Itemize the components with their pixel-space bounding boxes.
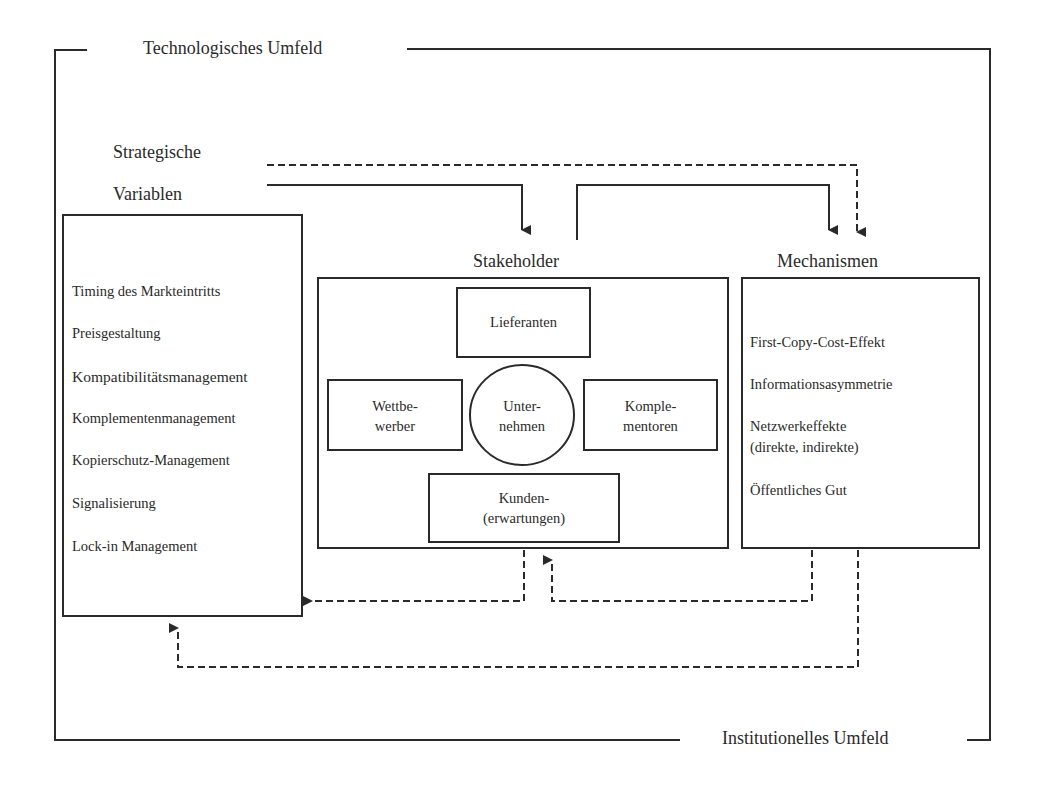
complementors-label-line1: Komple-	[584, 398, 717, 415]
stakeholder-title: Stakeholder	[473, 251, 559, 272]
mechanisms-box	[742, 278, 979, 548]
institutional-environment-label: Institutionelles Umfeld	[722, 728, 888, 749]
strategic-variable-item: Signalisierung	[72, 495, 156, 512]
competitors-label-line1: Wettbe-	[328, 398, 462, 415]
strategic-variable-item: Komplementenmanagement	[72, 410, 235, 427]
company-circle	[470, 365, 574, 465]
mechanism-item: Öffentliches Gut	[750, 482, 847, 499]
strategic-variables-title-line2: Variablen	[113, 184, 182, 205]
strategic-variable-item: Kopierschutz-Management	[72, 452, 230, 469]
diagram-connectors	[0, 0, 1042, 788]
complementors-label-line2: mentoren	[584, 418, 717, 435]
mechanism-item: Informationsasymmetrie	[750, 376, 893, 393]
complementors-box	[584, 380, 717, 450]
technological-environment-label: Technologisches Umfeld	[143, 38, 322, 59]
mechanism-item: Netzwerkeffekte	[750, 418, 846, 435]
arrow-variables-to-stakeholder	[267, 185, 522, 230]
environment-frame-top-right	[407, 49, 990, 740]
arrow-stakeholder-to-mechanisms	[577, 185, 829, 240]
strategic-variable-item: Preisgestaltung	[72, 325, 161, 342]
company-label-line2: nehmen	[470, 418, 574, 435]
strategic-variable-item: Lock-in Management	[72, 538, 197, 555]
strategic-variables-title-line1: Strategische	[113, 142, 201, 163]
strategic-variable-item: Kompatibilitätsmanagement	[72, 368, 248, 386]
customers-box	[429, 474, 619, 542]
competitors-label-line2: werber	[328, 418, 462, 435]
strategic-variable-item: Timing des Markteintritts	[72, 283, 221, 300]
competitors-box	[328, 380, 462, 450]
mechanism-item: (direkte, indirekte)	[750, 439, 859, 456]
mechanism-item: First-Copy-Cost-Effekt	[750, 334, 885, 351]
dashed-arrow-mechanisms-to-variables	[178, 550, 858, 667]
customers-label-line1: Kunden-	[429, 490, 619, 507]
dashed-arrow-stakeholder-to-variables	[312, 550, 524, 601]
mechanisms-title: Mechanismen	[777, 251, 878, 272]
dashed-arrow-variables-to-mechanisms	[267, 165, 857, 232]
customers-label-line2: (erwartungen)	[429, 510, 619, 527]
dashed-arrow-mechanisms-to-stakeholder	[552, 550, 812, 601]
suppliers-label: Lieferanten	[457, 314, 590, 331]
company-label-line1: Unter-	[470, 398, 574, 415]
